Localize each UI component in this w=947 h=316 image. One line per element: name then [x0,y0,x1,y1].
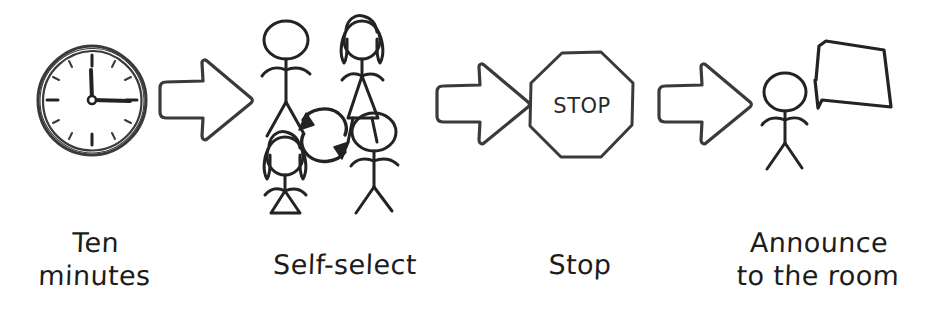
people-self-select-icon [252,14,432,214]
clock-icon [33,42,151,160]
block-arrow-right-icon [655,62,755,146]
label-self-select: Self-select [229,248,460,281]
cycle-arrows-icon [299,109,349,161]
label-announce-to-the-room: Announce to the room [689,226,947,292]
block-arrow-right-icon [156,58,256,142]
diagram-canvas: STOP Ten minutes Self-select [0,0,947,316]
step-clock [33,42,151,160]
label-ten-minutes: Ten minutes [0,226,191,292]
stop-sign-icon: STOP [527,49,637,161]
speech-bubble-icon [815,41,891,108]
stop-sign-text: STOP [553,94,610,118]
step-self-select [252,14,432,214]
stick-figure-female-bottom-left [264,132,306,213]
connector-arrow-1 [156,58,256,142]
stick-figure-female-top-right [341,16,383,142]
person-speech-bubble-icon [752,12,902,172]
block-arrow-right-icon [433,62,533,146]
step-stop: STOP [527,49,637,161]
connector-arrow-2 [433,62,533,146]
step-announce [752,12,902,172]
connector-arrow-3 [655,62,755,146]
label-stop: Stop [499,248,660,281]
stick-figure-speaker [762,73,807,169]
